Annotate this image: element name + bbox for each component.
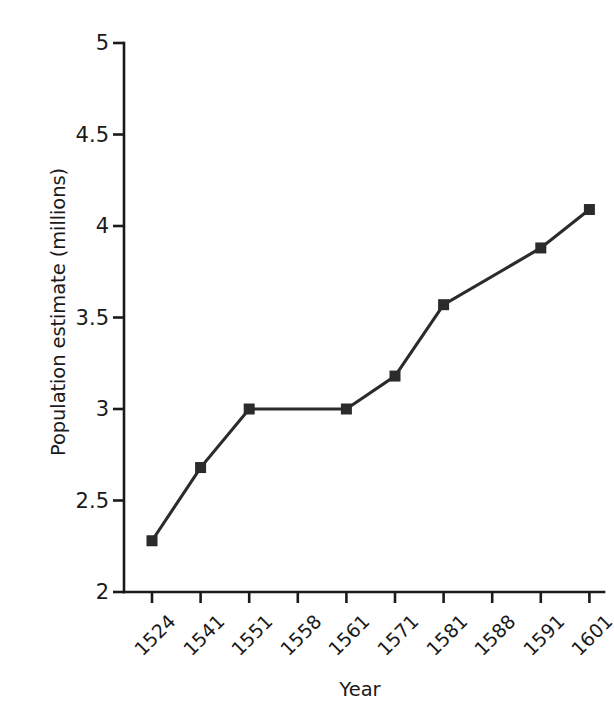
x-axis-title: Year (110, 678, 610, 701)
y-tick-label: 3.5 (58, 306, 109, 330)
data-point-marker (535, 242, 546, 253)
y-tick-label: 2 (58, 580, 109, 604)
chart-figure: Population estimate (millions) 22.533.54… (0, 0, 614, 725)
y-tick-label: 4.5 (58, 123, 109, 147)
data-point-marker (341, 404, 352, 415)
data-line-population (152, 210, 589, 541)
y-axis-tick-marks (113, 43, 124, 592)
x-axis-tick-marks (152, 592, 589, 603)
data-point-marker (390, 371, 401, 382)
data-point-marker (584, 204, 595, 215)
data-point-marker (244, 404, 255, 415)
y-tick-label: 3 (58, 397, 109, 421)
data-point-marker (195, 462, 206, 473)
data-point-marker (147, 535, 158, 546)
y-tick-label: 4 (58, 214, 109, 238)
y-tick-label: 2.5 (58, 489, 109, 513)
data-point-marker (438, 299, 449, 310)
y-tick-label: 5 (58, 31, 109, 55)
